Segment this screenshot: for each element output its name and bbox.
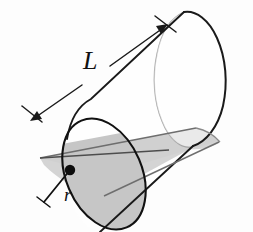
- length-dimension-line-lower: [36, 85, 82, 117]
- radius-label: r: [64, 185, 71, 204]
- geometry-figure: L r: [0, 0, 253, 232]
- radius-endpoint-tick: [37, 197, 50, 207]
- cylinder-axis-center-point: [65, 165, 75, 175]
- length-label: L: [83, 48, 97, 74]
- cylinder-illustration: [0, 0, 253, 232]
- cylinder-body-group: [22, 12, 226, 232]
- length-arrowhead-near: [30, 111, 42, 121]
